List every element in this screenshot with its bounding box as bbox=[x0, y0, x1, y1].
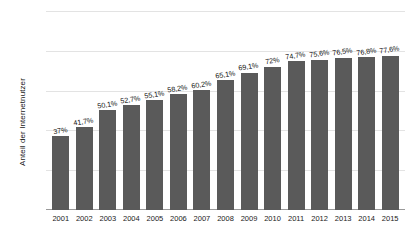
bar[interactable] bbox=[76, 127, 93, 210]
bar-slot: 65,1% bbox=[214, 11, 238, 210]
bar-slot: 75,6% bbox=[308, 11, 332, 210]
x-axis-tick-label: 2002 bbox=[76, 214, 93, 223]
bar-value-label: 69,1% bbox=[238, 61, 259, 73]
bar[interactable] bbox=[170, 94, 187, 210]
bar[interactable] bbox=[335, 58, 352, 210]
bar-value-label: 74,7% bbox=[285, 49, 306, 61]
bar[interactable] bbox=[241, 73, 258, 211]
bar-slot: 76,8% bbox=[355, 11, 379, 210]
bar-chart: Anteil der Internetnutzer 0%20%40%60%80%… bbox=[0, 0, 409, 244]
bar[interactable] bbox=[288, 61, 305, 210]
bar[interactable] bbox=[99, 110, 116, 210]
bar-value-label: 76,8% bbox=[355, 45, 376, 57]
bar-value-label: 37% bbox=[52, 125, 67, 136]
bar[interactable] bbox=[311, 60, 328, 210]
x-axis-tick-label: 2006 bbox=[170, 214, 187, 223]
y-axis-title: Anteil der Internetnutzer bbox=[14, 0, 30, 244]
bar-slot: 69,1% bbox=[237, 11, 261, 210]
x-axis-tick-label: 2004 bbox=[123, 214, 140, 223]
bar[interactable] bbox=[382, 56, 399, 210]
bar[interactable] bbox=[264, 67, 281, 210]
bar-slot: 52,7% bbox=[120, 11, 144, 210]
bar-slot: 77,6% bbox=[378, 11, 402, 210]
x-axis-tick-label: 2013 bbox=[335, 214, 352, 223]
bar-slot: 72% bbox=[261, 11, 285, 210]
x-axis-tick-label: 2014 bbox=[358, 214, 375, 223]
x-axis-tick-label: 2005 bbox=[147, 214, 164, 223]
x-axis-tick-label: 2007 bbox=[194, 214, 211, 223]
bar-slot: 55,1% bbox=[143, 11, 167, 210]
x-axis-tick-label: 2012 bbox=[311, 214, 328, 223]
bar-value-label: 76,5% bbox=[332, 46, 353, 58]
bar-slot: 37% bbox=[49, 11, 73, 210]
bar-value-label: 55,1% bbox=[144, 88, 165, 100]
bar-value-label: 50,1% bbox=[97, 98, 118, 110]
bar[interactable] bbox=[358, 57, 375, 210]
x-axis-tick-label: 2003 bbox=[99, 214, 116, 223]
bar-slot: 76,5% bbox=[331, 11, 355, 210]
plot-area: 0%20%40%60%80%100% 37%41,7%50,1%52,7%55,… bbox=[46, 11, 405, 210]
bar[interactable] bbox=[146, 100, 163, 210]
x-axis-tick-label: 2009 bbox=[241, 214, 258, 223]
bar-value-label: 75,6% bbox=[308, 48, 329, 60]
x-axis-tick-label: 2008 bbox=[217, 214, 234, 223]
x-axis-tick-label: 2011 bbox=[288, 214, 304, 223]
bar[interactable] bbox=[123, 105, 140, 210]
x-axis-tick-label: 2015 bbox=[382, 214, 399, 223]
bar-series: 37%41,7%50,1%52,7%55,1%58,2%60,2%65,1%69… bbox=[46, 11, 405, 210]
bar-value-label: 60,2% bbox=[191, 78, 212, 90]
bar[interactable] bbox=[193, 90, 210, 210]
bar-value-label: 41,7% bbox=[73, 115, 94, 127]
bar-slot: 74,7% bbox=[284, 11, 308, 210]
x-axis-tick-label: 2001 bbox=[52, 214, 69, 223]
bar-slot: 50,1% bbox=[96, 11, 120, 210]
bar-value-label: 58,2% bbox=[167, 82, 188, 94]
bar[interactable] bbox=[52, 136, 69, 210]
bar-value-label: 72% bbox=[264, 55, 279, 66]
bar[interactable] bbox=[217, 80, 234, 210]
bar-slot: 60,2% bbox=[190, 11, 214, 210]
bar-value-label: 52,7% bbox=[120, 93, 141, 105]
bar-slot: 41,7% bbox=[73, 11, 97, 210]
bar-slot: 58,2% bbox=[167, 11, 191, 210]
bar-value-label: 65,1% bbox=[214, 69, 235, 81]
x-axis-tick-label: 2010 bbox=[264, 214, 281, 223]
bar-value-label: 77,6% bbox=[379, 44, 400, 56]
